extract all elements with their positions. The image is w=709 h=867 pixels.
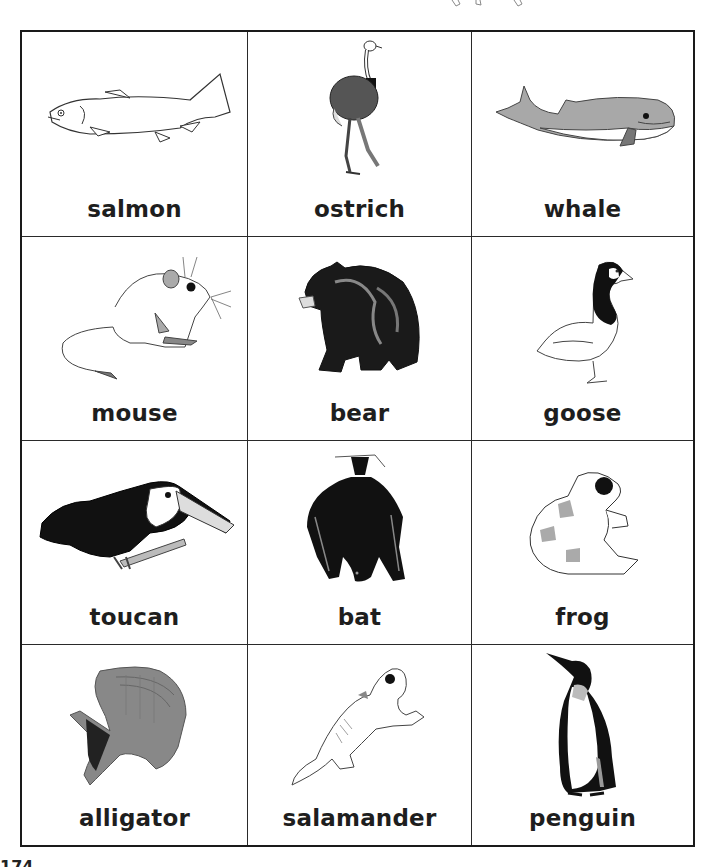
card-bear[interactable]: bear: [248, 237, 472, 441]
card-label: mouse: [22, 400, 247, 426]
card-label: salamander: [248, 805, 471, 831]
alligator-icon: [60, 655, 210, 795]
bear-icon: [285, 252, 435, 382]
animal-card-grid: salmon ostrich: [20, 30, 695, 847]
toucan-icon: [30, 461, 240, 581]
ostrich-icon: [320, 38, 400, 186]
card-frog[interactable]: frog: [472, 441, 693, 645]
frog-icon: [508, 456, 658, 586]
card-label: bat: [248, 604, 471, 630]
card-goose[interactable]: goose: [472, 237, 693, 441]
card-label: salmon: [22, 196, 247, 222]
card-salamander[interactable]: salamander: [248, 645, 472, 845]
card-label: bear: [248, 400, 471, 426]
mouse-icon: [35, 247, 235, 387]
whale-icon: [478, 62, 688, 162]
salmon-icon: [30, 62, 240, 162]
bat-icon: [295, 447, 425, 595]
card-label: goose: [472, 400, 693, 426]
card-label: frog: [472, 604, 693, 630]
card-label: penguin: [472, 805, 693, 831]
card-salmon[interactable]: salmon: [22, 32, 248, 237]
card-label: whale: [472, 196, 693, 222]
card-alligator[interactable]: alligator: [22, 645, 248, 845]
card-ostrich[interactable]: ostrich: [248, 32, 472, 237]
card-penguin[interactable]: penguin: [472, 645, 693, 845]
card-whale[interactable]: whale: [472, 32, 693, 237]
page-number: 174: [0, 856, 33, 867]
salamander-icon: [280, 655, 440, 795]
card-label: alligator: [22, 805, 247, 831]
card-mouse[interactable]: mouse: [22, 237, 248, 441]
clipped-previous-image: [450, 0, 680, 20]
goose-icon: [523, 243, 643, 391]
card-toucan[interactable]: toucan: [22, 441, 248, 645]
card-label: ostrich: [248, 196, 471, 222]
penguin-icon: [538, 647, 628, 805]
card-bat[interactable]: bat: [248, 441, 472, 645]
card-label: toucan: [22, 604, 247, 630]
